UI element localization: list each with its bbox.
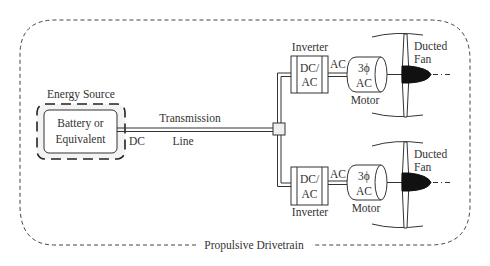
inverter-line1: DC/ — [300, 62, 320, 74]
inverter-top: DC/ AC — [291, 56, 328, 93]
fan-label-line2: Fan — [414, 53, 432, 65]
fan-label-line1: Ducted — [414, 148, 447, 160]
fan-label-line2: Fan — [414, 161, 432, 173]
motor-line2: AC — [356, 77, 372, 89]
branch-top: Inverter DC/ AC AC 3ϕ AC Motor Ducted Fa… — [291, 33, 450, 117]
inverter-bottom: DC/ AC — [291, 167, 328, 205]
motor-label: Motor — [352, 202, 381, 214]
ac-link-label: AC — [330, 58, 346, 70]
ac-link-label: AC — [330, 168, 346, 180]
drivetrain-label: Propulsive Drivetrain — [204, 239, 304, 252]
motor-line2: AC — [356, 185, 372, 197]
inverter-title: Inverter — [292, 41, 329, 53]
motor-bottom: 3ϕ AC — [347, 165, 387, 200]
inverter-line2: AC — [302, 188, 318, 200]
inverter-title: Inverter — [292, 206, 329, 218]
motor-label: Motor — [351, 94, 380, 106]
energy-source: Energy Source Battery or Equivalent DC — [37, 88, 145, 159]
branch-bottom: DC/ AC Inverter AC 3ϕ AC Motor Ducted Fa… — [291, 142, 450, 228]
junction-box — [273, 123, 285, 135]
battery-label-line1: Battery or — [57, 117, 103, 130]
transmission-label-line2: Line — [172, 135, 193, 147]
propulsive-drivetrain-diagram: Propulsive Drivetrain Energy Source Batt… — [0, 0, 490, 266]
transmission-label-line1: Transmission — [159, 112, 221, 124]
inverter-line2: AC — [302, 76, 318, 88]
energy-source-title: Energy Source — [47, 88, 115, 101]
fan-hub — [402, 173, 431, 191]
motor-line1: 3ϕ — [358, 62, 370, 75]
inverter-line1: DC/ — [300, 173, 320, 185]
fan-label-line1: Ducted — [414, 40, 447, 52]
fan-hub — [402, 66, 431, 83]
motor-line1: 3ϕ — [358, 170, 370, 183]
battery-label-line2: Equivalent — [56, 133, 107, 146]
dc-label: DC — [129, 135, 145, 147]
motor-top: 3ϕ AC — [347, 57, 387, 92]
